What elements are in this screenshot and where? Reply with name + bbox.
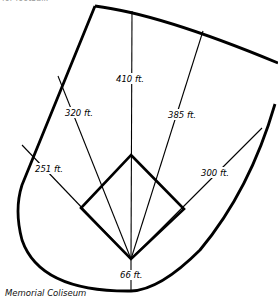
label-right-center: 385 ft.: [168, 110, 196, 120]
field-outline: [18, 6, 278, 291]
label-right-field: 300 ft.: [201, 168, 229, 178]
ballpark-diagram: 410 ft. 385 ft. 320 ft. 251 ft. 300 ft. …: [0, 0, 278, 303]
label-center: 410 ft.: [116, 74, 144, 84]
label-backstop: 66 ft.: [120, 270, 143, 280]
label-left-center: 320 ft.: [65, 108, 93, 118]
line-center: [131, 11, 132, 259]
infield-diamond: [81, 155, 184, 259]
label-left-field: 251 ft.: [35, 164, 63, 174]
diagram-caption: Memorial Coliseum: [5, 288, 86, 298]
